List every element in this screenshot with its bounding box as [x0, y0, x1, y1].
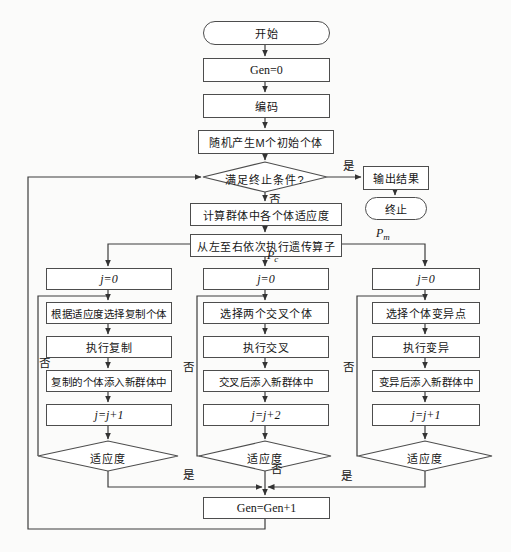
connector	[108, 244, 190, 266]
left-exec-copy-node: 执行复制	[46, 336, 172, 358]
left-j-inc-node: j=j+1	[46, 404, 172, 426]
left-select-node: 根据适应度选择复制个体	[46, 302, 172, 324]
yes-edge-label: 是	[343, 161, 354, 173]
middle-fitness-decision-label: 适应度	[215, 450, 315, 466]
right-j-inc-node: j=j+1	[372, 404, 480, 426]
right-exit-yes-label: 是	[341, 471, 352, 483]
right-exec-mutation-node: 执行变异	[372, 336, 480, 358]
middle-append-node: 交叉后添入新群体中	[203, 370, 329, 392]
middle-exec-crossover-node: 执行交叉	[203, 336, 329, 358]
middle-j-init-node: j=0	[203, 268, 329, 290]
middle-select-node: 选择两个交叉个体	[203, 302, 329, 324]
right-loop-no-label: 否	[343, 362, 354, 374]
pc-edge-label: Pc	[267, 249, 278, 264]
left-loop-no-label: 否	[39, 358, 50, 370]
right-j-init-node: j=0	[372, 268, 480, 290]
gen-increment-node: Gen=Gen+1	[203, 497, 330, 519]
left-fitness-decision-label: 适应度	[58, 450, 158, 466]
middle-loop-no-label: 否	[183, 362, 194, 374]
left-append-node: 复制的个体添入新群体中	[46, 370, 172, 392]
connector	[340, 244, 425, 266]
fitness-calc-node: 计算群体中各个体适应度	[190, 203, 342, 226]
end-node: 终止	[365, 197, 427, 220]
pm-edge-label: Pm	[376, 227, 390, 242]
init-population-node: 随机产生M个初始个体	[198, 130, 334, 154]
termination-decision-label: 满足终止条件?	[205, 171, 325, 187]
output-result-node: 输出结果	[363, 166, 429, 190]
flowchart-canvas: 开始 Gen=0 编码 随机产生M个初始个体 满足终止条件? 是 否 输出结果 …	[0, 0, 511, 552]
right-append-node: 变异后添入新群体中	[372, 370, 480, 392]
right-fitness-decision-label: 适应度	[375, 450, 475, 466]
left-exit-yes-label: 是	[183, 470, 194, 482]
middle-j-inc-node: j=j+2	[203, 404, 329, 426]
right-select-node: 选择个体变异点	[372, 302, 480, 324]
gen-init-node: Gen=0	[203, 58, 330, 82]
left-j-init-node: j=0	[46, 268, 172, 290]
encode-node: 编码	[203, 94, 330, 118]
dispatch-node: 从左至右依次执行遗传算子	[190, 234, 342, 257]
start-node: 开始	[203, 21, 330, 45]
middle-exit-no-label: 否	[271, 464, 282, 476]
